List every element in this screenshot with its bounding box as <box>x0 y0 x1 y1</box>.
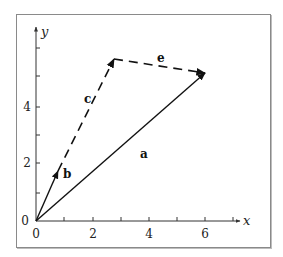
y-axis-label: y <box>40 24 49 39</box>
vector-a-label: a <box>140 147 148 161</box>
vector-e-label: e <box>157 51 165 65</box>
x-tick-6: 6 <box>201 227 209 241</box>
y-axis: 0 2 4 y <box>21 24 49 228</box>
vector-c: c <box>58 59 114 171</box>
y-tick-4: 4 <box>23 100 31 114</box>
x-axis-label: x <box>243 213 251 228</box>
vector-b-label: b <box>63 167 71 181</box>
x-tick-4: 4 <box>145 227 153 241</box>
y-tick-2: 2 <box>23 156 31 170</box>
x-axis: 0 2 4 6 x <box>32 213 251 241</box>
x-tick-0: 0 <box>32 227 40 241</box>
vector-diagram: 0 2 4 6 x 0 2 4 y a b c e <box>0 0 283 257</box>
vector-a: a <box>36 73 205 221</box>
vector-e: e <box>114 51 205 73</box>
x-tick-2: 2 <box>89 227 97 241</box>
y-tick-0: 0 <box>21 214 29 228</box>
vector-c-label: c <box>84 92 91 106</box>
